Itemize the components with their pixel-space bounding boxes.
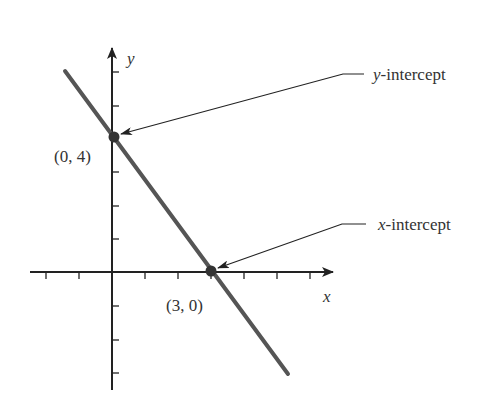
x-axis-ticks — [46, 272, 310, 279]
y-intercept-text: -intercept — [381, 65, 446, 84]
x-axis-label: x — [322, 287, 331, 306]
y-axis — [112, 48, 119, 390]
point-label-3-0: (3, 0) — [166, 296, 203, 315]
y-intercept-annotation: y-intercept — [371, 65, 446, 84]
y-intercept-leader — [121, 74, 364, 134]
x-intercept-text: -intercept — [386, 215, 451, 234]
y-axis-ticks — [112, 72, 119, 373]
y-intercept-var: y — [371, 65, 381, 84]
x-intercept-leader — [218, 224, 366, 268]
point-label-0-4: (0, 4) — [54, 147, 91, 166]
x-intercept-point — [206, 266, 217, 277]
y-axis-label: y — [125, 49, 135, 68]
line-intercepts-diagram: y x (0, 4) (3, 0) y-intercept x-intercep… — [0, 0, 504, 408]
graph-line — [65, 71, 288, 374]
x-axis — [30, 272, 333, 279]
x-intercept-annotation: x-intercept — [377, 215, 451, 234]
y-intercept-point — [109, 132, 120, 143]
